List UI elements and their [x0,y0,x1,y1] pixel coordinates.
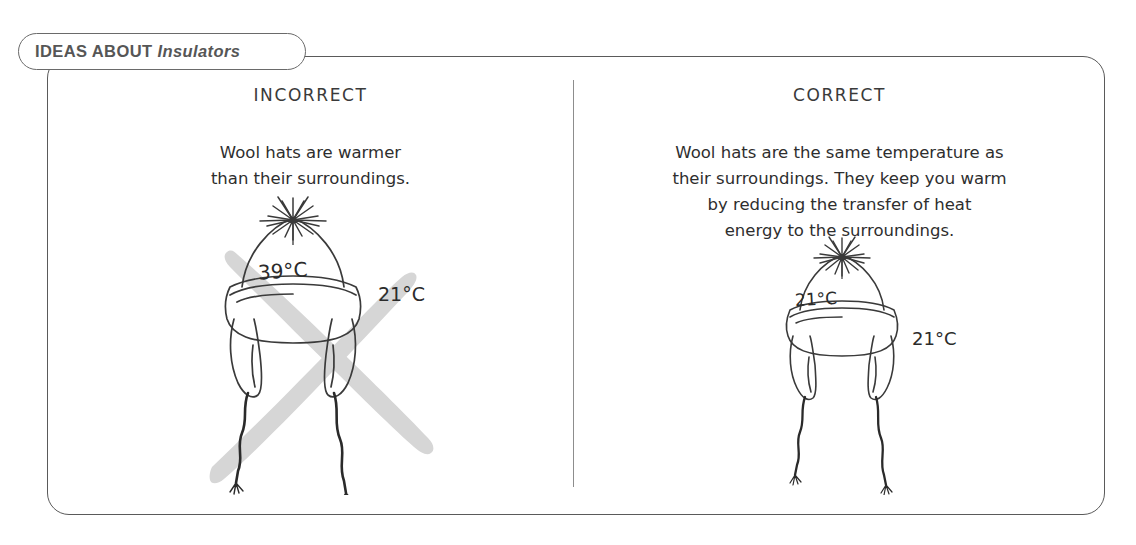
tab-title-topic: Insulators [152,42,240,60]
column-body-correct: Wool hats are the same temperature as th… [574,140,1105,244]
cord-tassel-icon [230,483,353,495]
incorrect-hat-illustration [190,195,440,495]
tab-title: IDEAS ABOUT Insulators [19,42,240,61]
hat-cords-icon [795,397,886,485]
incorrect-ambient-temperature: 21°C [378,283,425,305]
column-body-incorrect: Wool hats are warmer than their surround… [47,140,574,192]
body-line: than their surroundings. [47,166,574,192]
body-line: by reducing the transfer of heat [574,192,1105,218]
tab-title-main: IDEAS ABOUT [35,42,152,60]
column-heading-correct: CORRECT [574,85,1105,105]
ideas-about-tab: IDEAS ABOUT Insulators [18,33,306,70]
incorrect-hat-temperature: 39°C [257,257,308,284]
correct-ambient-temperature: 21°C [912,328,956,349]
column-heading-incorrect: INCORRECT [47,85,574,105]
cord-tassel-icon [790,475,892,495]
body-line: Wool hats are the same temperature as [574,140,1105,166]
correct-hat-temperature: 21°C [795,288,838,310]
body-line: Wool hats are warmer [47,140,574,166]
correct-hat-illustration [755,235,955,495]
body-line: their surroundings. They keep you warm [574,166,1105,192]
